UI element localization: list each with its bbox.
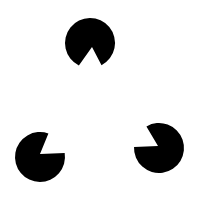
kanizsa-figure (0, 0, 199, 200)
